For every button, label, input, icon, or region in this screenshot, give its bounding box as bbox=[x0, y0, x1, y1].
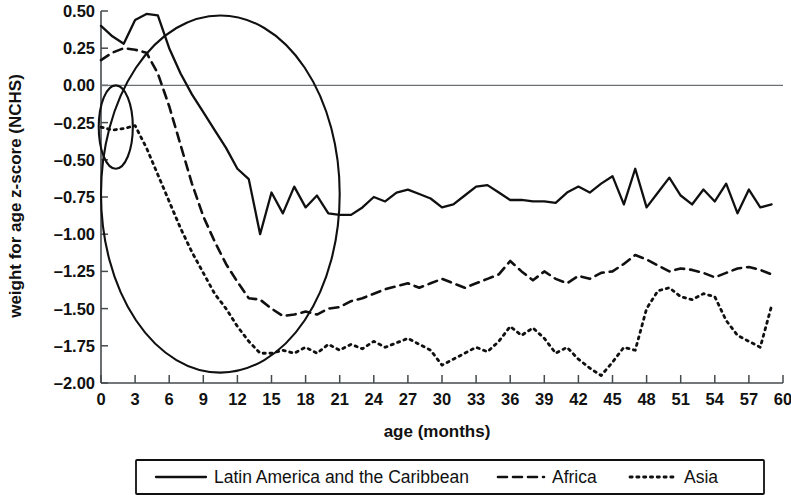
series-line-solid bbox=[101, 14, 772, 234]
x-tick-label: 15 bbox=[262, 390, 280, 408]
y-tick-label: 0.25 bbox=[63, 39, 95, 57]
x-axis-title: age (months) bbox=[384, 422, 491, 441]
y-tick-label: 0.00 bbox=[63, 76, 95, 94]
x-tick-label: 54 bbox=[706, 390, 725, 408]
x-tick-label: 33 bbox=[467, 390, 485, 408]
legend-label: Asia bbox=[684, 467, 718, 487]
x-tick-label: 0 bbox=[96, 390, 105, 408]
x-tick-label: 24 bbox=[365, 390, 384, 408]
x-tick-label: 57 bbox=[740, 390, 758, 408]
y-tick-label: –0.75 bbox=[54, 188, 95, 206]
y-tick-label: –1.50 bbox=[54, 300, 95, 318]
x-tick-label: 48 bbox=[637, 390, 655, 408]
chart-svg: weight for age z-score (NCHS) age (month… bbox=[0, 0, 791, 495]
y-tick-label: –0.25 bbox=[54, 114, 95, 132]
series-line-dotted bbox=[101, 126, 772, 376]
y-tick-label-group: 0.500.250.00–0.25–0.50–0.75–1.00–1.25–1.… bbox=[54, 2, 95, 392]
x-tick-label: 42 bbox=[569, 390, 587, 408]
x-tick-label: 39 bbox=[535, 390, 553, 408]
x-tick-label: 18 bbox=[296, 390, 314, 408]
y-tick-label: –1.75 bbox=[54, 337, 95, 355]
legend-label: Latin America and the Caribbean bbox=[214, 467, 469, 487]
series-group bbox=[101, 14, 772, 376]
x-tick-label: 12 bbox=[228, 390, 246, 408]
x-tick-label: 9 bbox=[199, 390, 208, 408]
x-tick-label: 45 bbox=[603, 390, 621, 408]
y-axis-title: weight for age z-score (NCHS) bbox=[6, 74, 25, 319]
x-tick-label: 6 bbox=[165, 390, 174, 408]
x-tick-label-group: 03691215182124273033363942454851545760 bbox=[96, 390, 791, 408]
x-tick-label: 3 bbox=[131, 390, 140, 408]
x-tick-mark-group bbox=[101, 375, 783, 383]
y-tick-label: –2.00 bbox=[54, 374, 95, 392]
annotation-group bbox=[99, 15, 340, 372]
y-tick-label: 0.50 bbox=[63, 2, 95, 20]
y-tick-label: –1.25 bbox=[54, 262, 95, 280]
legend-label: Africa bbox=[552, 467, 597, 487]
x-tick-label: 27 bbox=[399, 390, 417, 408]
y-tick-label: –0.50 bbox=[54, 151, 95, 169]
x-tick-label: 60 bbox=[774, 390, 791, 408]
x-tick-label: 21 bbox=[331, 390, 349, 408]
x-tick-label: 36 bbox=[501, 390, 519, 408]
x-tick-label: 51 bbox=[672, 390, 690, 408]
x-tick-label: 30 bbox=[433, 390, 451, 408]
chart-figure: weight for age z-score (NCHS) age (month… bbox=[0, 0, 791, 495]
y-tick-label: –1.00 bbox=[54, 225, 95, 243]
large-highlight-ellipse bbox=[101, 15, 340, 372]
